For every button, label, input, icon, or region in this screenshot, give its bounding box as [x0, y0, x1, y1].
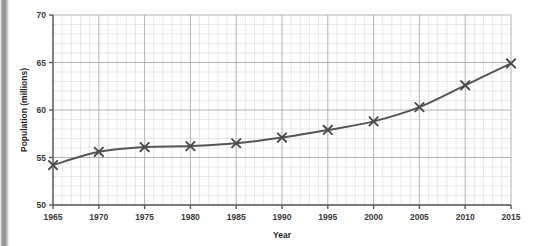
y-axis-tick-label: 55	[37, 153, 47, 163]
x-axis-title: Year	[273, 230, 292, 240]
population-line-chart-figure: 5055606570 19651970197519801985199019952…	[0, 0, 538, 246]
y-axis-tick-label: 65	[37, 58, 47, 68]
chart-canvas: 5055606570 19651970197519801985199019952…	[0, 0, 538, 246]
x-axis-tick-label: 2000	[364, 212, 383, 222]
x-axis-tick-label: 2015	[502, 212, 521, 222]
x-axis-tick-label: 1985	[227, 212, 246, 222]
x-axis-tick-label: 1990	[273, 212, 292, 222]
x-axis-tick-label: 1970	[89, 212, 108, 222]
x-axis-tick-label: 1975	[135, 212, 154, 222]
x-axis-tick-label: 1995	[318, 212, 337, 222]
x-axis-tick-label: 2005	[410, 212, 429, 222]
x-axis-tick-label: 2010	[456, 212, 475, 222]
y-axis-title: Population (millions)	[19, 68, 29, 152]
y-axis-tick-label: 60	[37, 105, 47, 115]
y-axis-tick-labels: 5055606570	[37, 10, 47, 210]
x-axis-tick-labels: 1965197019751980198519901995200020052010…	[44, 212, 521, 222]
y-axis-tick-label: 70	[37, 10, 47, 20]
x-axis-tick-label: 1980	[181, 212, 200, 222]
y-axis-tick-label: 50	[37, 200, 47, 210]
x-axis-tick-label: 1965	[44, 212, 63, 222]
